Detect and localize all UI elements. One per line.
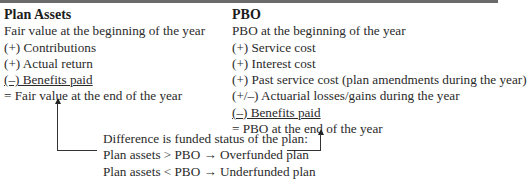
pbo-line: (+) Interest cost <box>232 56 527 72</box>
connector-line <box>320 134 321 150</box>
note-line: Plan assets < PBO → Underfunded plan <box>103 164 316 180</box>
pbo-heading: PBO <box>232 7 527 23</box>
plan-assets-line: = Fair value at the end of the year <box>4 88 205 104</box>
note-line: Plan assets > PBO → Overfunded plan <box>103 147 316 163</box>
arrow-up-icon <box>318 129 324 135</box>
connector-line <box>57 150 97 151</box>
plan-assets-line: Fair value at the beginning of the year <box>4 23 205 39</box>
plan-assets-line: (–) Benefits paid <box>4 72 205 88</box>
pbo-line: (–) Benefits paid <box>232 105 527 121</box>
pbo-line: PBO at the beginning of the year <box>232 23 527 39</box>
plan-assets-line: (+) Actual return <box>4 56 205 72</box>
connector-line <box>57 103 58 150</box>
pbo-column: PBO PBO at the beginning of the year (+)… <box>232 7 527 137</box>
pbo-line: (+/–) Actuarial losses/gains during the … <box>232 88 527 104</box>
plan-assets-column: Plan Assets Fair value at the beginning … <box>4 7 205 105</box>
note-line: Difference is funded status of the plan: <box>103 131 316 147</box>
funded-status-note: Difference is funded status of the plan:… <box>103 131 316 180</box>
pbo-line: (+) Service cost <box>232 40 527 56</box>
arrow-up-icon <box>55 98 61 104</box>
plan-assets-heading: Plan Assets <box>4 7 205 23</box>
top-rule <box>0 0 498 3</box>
pbo-line: (+) Past service cost (plan amendments d… <box>232 72 527 88</box>
plan-assets-line: (+) Contributions <box>4 40 205 56</box>
